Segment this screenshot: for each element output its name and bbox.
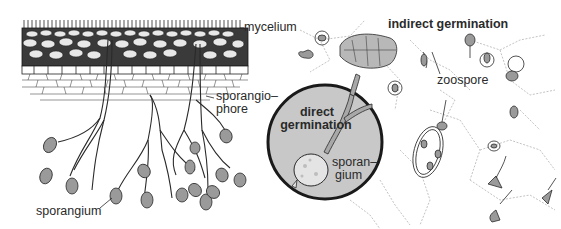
label-sporangium: sporangium	[36, 205, 101, 218]
label-sporangiophore-line2: phore	[216, 103, 248, 116]
label-indirect-germination: indirect germination	[388, 18, 508, 31]
sporangia	[38, 127, 246, 210]
lower-epidermis-cells	[22, 74, 248, 100]
large-sporangium-cluster-icon	[340, 34, 397, 68]
oval-sporangium-with-zoospores-icon	[408, 100, 449, 181]
label-zoospore: zoospore	[437, 74, 488, 87]
leaf-cross-section	[22, 20, 248, 100]
direct-germination-inset	[268, 74, 382, 199]
label-direct-line2: germination	[276, 119, 356, 132]
illustration	[0, 0, 561, 229]
epidermis-hairs-icon	[24, 20, 240, 28]
diagram-figure: mycelium sporangio– phore sporangium ind…	[0, 0, 561, 229]
label-inset-sporangium-line2: gium	[335, 169, 362, 182]
label-mycelium: mycelium	[244, 21, 297, 34]
